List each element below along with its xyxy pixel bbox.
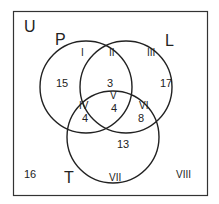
universe-label: U xyxy=(24,18,36,35)
region-vii-label: VII xyxy=(109,172,121,183)
region-ii-label: II xyxy=(109,47,115,58)
set-t-label: T xyxy=(64,169,74,186)
region-i-label: I xyxy=(81,47,84,58)
venn-diagram: U P L T I 15 II 3 III 17 IV 4 V 4 VI 8 1… xyxy=(0,0,219,204)
outside-value: 16 xyxy=(24,168,36,180)
set-l-circle xyxy=(80,41,172,133)
region-v-label: V xyxy=(110,90,117,101)
region-viii-label: VIII xyxy=(176,169,191,180)
region-iii-value: 17 xyxy=(160,77,172,89)
region-ii-value: 3 xyxy=(107,77,113,89)
set-p-label: P xyxy=(55,31,66,48)
region-i-value: 15 xyxy=(56,77,68,89)
region-iv-label: IV xyxy=(79,100,89,111)
region-vii-value: 13 xyxy=(117,138,129,150)
region-vi-label: VI xyxy=(139,100,148,111)
region-iv-value: 4 xyxy=(82,112,88,124)
region-v-value: 4 xyxy=(111,102,117,114)
set-l-label: L xyxy=(165,32,174,49)
region-vi-value: 8 xyxy=(138,112,144,124)
region-iii-label: III xyxy=(147,47,155,58)
